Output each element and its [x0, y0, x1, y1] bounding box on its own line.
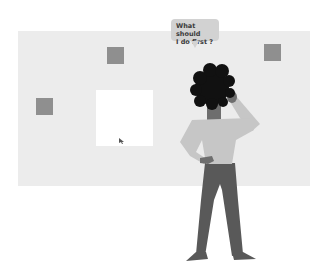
curly-hair: [190, 63, 235, 110]
thinking-person-figure: [0, 0, 329, 278]
left-foot: [186, 252, 208, 261]
shirt: [180, 118, 254, 164]
right-foot: [232, 252, 256, 260]
pants: [196, 163, 243, 256]
